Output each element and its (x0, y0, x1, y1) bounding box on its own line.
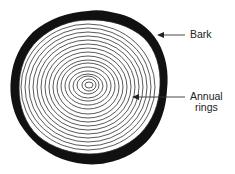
annual-rings-label-line2: rings (190, 102, 223, 113)
tree-cross-section (0, 0, 235, 174)
bark-arrow (157, 32, 185, 38)
bark-label: Bark (190, 29, 212, 40)
annual-rings-label: Annual rings (190, 91, 223, 113)
